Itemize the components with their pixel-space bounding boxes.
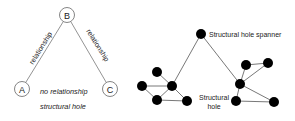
edge-label-ab: relationship (27, 30, 54, 66)
node (235, 79, 245, 89)
structural-hole-figure: B A C relationship relationship no relat… (0, 0, 295, 121)
node-c: C (103, 82, 118, 97)
spanner-node (196, 29, 206, 39)
node (269, 97, 279, 107)
edge-spanner-right (201, 34, 240, 84)
node (231, 96, 241, 106)
node-a: A (15, 82, 30, 97)
node-b-label: B (64, 11, 70, 21)
caption-structural-hole: structural hole (40, 102, 86, 111)
node-c-label: C (107, 85, 114, 95)
node (167, 81, 177, 91)
edge-spanner-left (172, 34, 201, 86)
node (241, 60, 251, 70)
edge (240, 84, 274, 102)
hole-label-line1: Structural (199, 94, 229, 101)
right-network-diagram (142, 34, 274, 102)
node (152, 67, 162, 77)
node (152, 95, 162, 105)
spanner-label: Structural hole spanner (209, 31, 282, 39)
node-b: B (60, 8, 75, 23)
node (137, 81, 147, 91)
left-triangle-diagram: B A C relationship relationship no relat… (15, 8, 118, 112)
hole-label-line2: hole (207, 103, 220, 110)
node-a-label: A (19, 85, 25, 95)
node (182, 96, 192, 106)
edge-b-a (26, 22, 63, 82)
caption-no-relationship: no relationship (40, 87, 87, 96)
edge-label-bc: relationship (84, 27, 111, 63)
edge (236, 101, 274, 102)
node (263, 58, 273, 68)
